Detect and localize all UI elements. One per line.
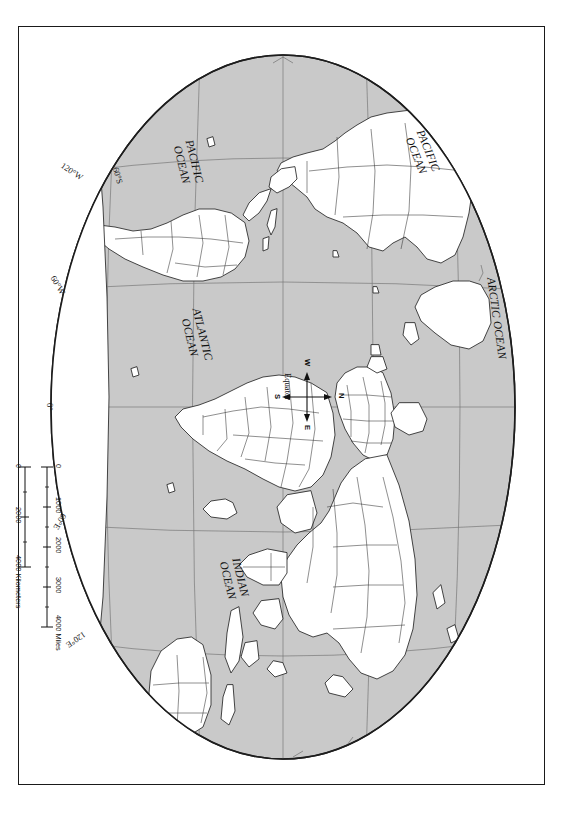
scale-bars: 0 1000 2000 3000 4000 Miles 0 (9, 463, 63, 663)
scale-miles-tick-0: 0 (54, 464, 63, 468)
land-tasmania (133, 709, 143, 723)
compass-label-east: E (303, 425, 312, 430)
rotated-map-container: PACIFIC OCEAN ARCTIC OCEAN INDIAN OCEAN … (33, 37, 533, 777)
land-ireland (371, 345, 381, 355)
map-canvas: PACIFIC OCEAN ARCTIC OCEAN INDIAN OCEAN … (33, 37, 533, 777)
page-root: PACIFIC OCEAN ARCTIC OCEAN INDIAN OCEAN … (0, 0, 566, 814)
scale-miles-unit-label: 4000 Miles (54, 615, 63, 651)
land-island-speck-7 (131, 367, 139, 377)
scale-miles-tick-1000: 1000 (54, 497, 63, 513)
scale-miles-tick-2000: 2000 (54, 537, 63, 553)
scale-km-unit-label: 4000 Kilometers (14, 555, 23, 608)
land-new-zealand-s (141, 741, 155, 755)
land-island-speck-6 (167, 483, 175, 493)
compass-rose: N S E W (277, 367, 337, 427)
scale-km-tick-2000: 2000 (14, 507, 23, 523)
land-alaska (423, 97, 451, 133)
scale-km-tick-0: 0 (14, 464, 23, 468)
scale-miles-tick-3000: 3000 (54, 577, 63, 593)
compass-label-south: S (273, 394, 282, 399)
land-hispaniola (263, 237, 269, 251)
land-new-zealand-n (157, 749, 171, 761)
compass-label-west: W (303, 359, 312, 366)
compass-rose-icon (277, 367, 337, 427)
graticule-label-lon-0: 0° (45, 403, 55, 411)
map-stage: PACIFIC OCEAN ARCTIC OCEAN INDIAN OCEAN … (0, 0, 566, 814)
compass-label-north: N (337, 393, 346, 398)
land-island-speck-5 (377, 727, 389, 743)
land-island-speck-8 (207, 137, 215, 147)
